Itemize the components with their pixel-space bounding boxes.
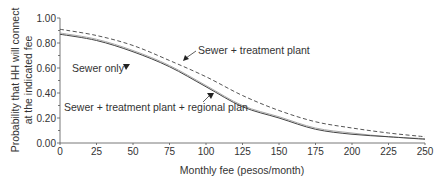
y-axis-title-line2: at the indicated fee — [22, 35, 34, 124]
x-tick-label: 250 — [417, 146, 434, 157]
y-axis-title: Probability that HH will connect at the … — [9, 8, 34, 153]
annotation-label: Sewer only — [72, 62, 125, 74]
x-tick-label: 200 — [344, 146, 361, 157]
probability-chart: Probability that HH will connect at the … — [0, 0, 448, 178]
x-tick-label: 100 — [198, 146, 215, 157]
x-axis-title: Monthly fee (pesos/month) — [180, 164, 304, 176]
x-tick-label: 175 — [307, 146, 324, 157]
y-tick-label: 0.80 — [37, 38, 57, 49]
x-tick-label: 0 — [57, 146, 63, 157]
x-tick-label: 125 — [234, 146, 251, 157]
annotation-label: Sewer + treatment plant + regional plan — [64, 101, 248, 113]
y-axis-title-line1: Probability that HH will connect — [9, 8, 21, 153]
y-tick-label: 1.00 — [37, 13, 57, 24]
annotation-arrow-line — [186, 51, 196, 58]
y-tick-label: 0.60 — [37, 63, 57, 74]
x-tick-label: 25 — [91, 146, 103, 157]
annotation-sewer-only: Sewer only — [72, 62, 130, 74]
y-tick-label: 0.20 — [37, 113, 57, 124]
x-tick-label: 75 — [164, 146, 176, 157]
x-tick-label: 225 — [380, 146, 397, 157]
arrow-head-icon — [207, 93, 214, 99]
y-tick-label: 0.40 — [37, 88, 57, 99]
annotation-sewer-treatment-plant: Sewer + treatment plant — [183, 44, 310, 61]
x-tick-label: 50 — [127, 146, 139, 157]
arrow-head-icon — [123, 64, 130, 70]
x-tick-label: 150 — [271, 146, 288, 157]
annotation-label: Sewer + treatment plant — [198, 44, 310, 56]
annotation-sewer-treatment-regional: Sewer + treatment plant + regional plan — [64, 93, 248, 113]
arrow-head-icon — [183, 55, 189, 61]
y-tick-label: 0.00 — [37, 138, 57, 149]
